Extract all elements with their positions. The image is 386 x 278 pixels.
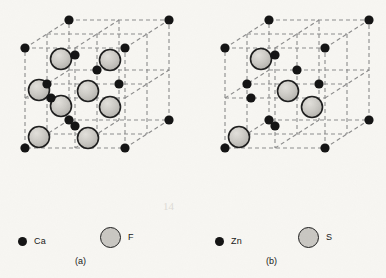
unit-cell-diagram-a bbox=[0, 0, 193, 225]
legend-entry-anion-a: F bbox=[100, 228, 134, 246]
legend-label-cation-b: Zn bbox=[231, 236, 242, 246]
figure-canvas: Ca F (a) bbox=[0, 0, 386, 278]
legend-entry-anion-b: S bbox=[298, 228, 332, 246]
small-filled-circle-icon bbox=[215, 237, 224, 246]
legend-label-cation-a: Ca bbox=[34, 236, 46, 246]
legend-entry-cation-b: Zn bbox=[215, 232, 242, 250]
panel-zinc-blende: Zn S (b) bbox=[193, 0, 386, 278]
unit-cell-diagram-b bbox=[193, 0, 386, 225]
large-shaded-circle-icon bbox=[100, 227, 121, 248]
large-shaded-circle-icon bbox=[298, 227, 319, 248]
legend-label-anion-a: F bbox=[128, 232, 134, 242]
legend-entry-cation-a: Ca bbox=[18, 232, 46, 250]
small-filled-circle-icon bbox=[18, 237, 27, 246]
panel-fluorite: Ca F (a) bbox=[0, 0, 193, 278]
legend-label-anion-b: S bbox=[326, 232, 332, 242]
panel-caption-b: (b) bbox=[175, 256, 368, 266]
ghost-page-mark: 14 bbox=[163, 200, 174, 212]
panel-caption-a: (a) bbox=[0, 256, 177, 266]
